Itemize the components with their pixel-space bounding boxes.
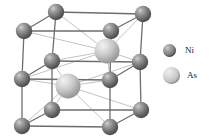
atom-ni	[14, 71, 30, 87]
atom-ni	[102, 72, 118, 88]
atom-ni	[16, 23, 32, 39]
atom-ni	[135, 6, 151, 22]
atom-as	[56, 74, 81, 99]
atom-as	[95, 39, 120, 64]
atom-ni	[133, 102, 149, 118]
atom-ni	[132, 54, 148, 70]
atom-ni	[44, 53, 60, 69]
legend-item-ni: Ni	[163, 44, 194, 57]
atom-ni	[102, 119, 118, 135]
cell-edge-line	[52, 61, 140, 62]
atom-ni	[103, 23, 119, 39]
legend-label-as: As	[187, 71, 197, 80]
sphere-icon	[163, 67, 180, 84]
sphere-icon	[163, 44, 176, 57]
legend-item-as: As	[163, 67, 197, 84]
cell-edge-line	[22, 126, 110, 127]
legend-label-ni: Ni	[185, 46, 194, 55]
atom-ni	[48, 4, 64, 20]
cell-edge-line	[56, 12, 143, 14]
legend: Ni As	[163, 42, 211, 94]
atom-ni	[44, 102, 60, 118]
atom-ni	[14, 118, 30, 134]
figure-canvas: Ni As	[0, 0, 211, 140]
